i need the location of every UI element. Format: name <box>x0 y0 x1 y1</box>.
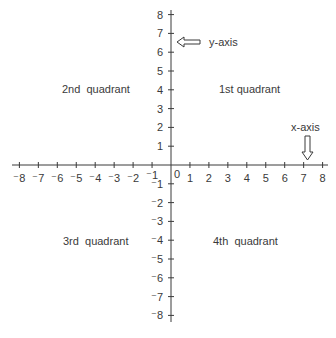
x-tick-label: 2 <box>206 172 212 184</box>
quadrant-4-label: 4th quadrant <box>213 235 278 247</box>
x-tick-label: ⁻4 <box>89 172 101 184</box>
x-tick-label: ⁻6 <box>51 172 63 184</box>
quadrant-2-label: 2nd quadrant <box>62 83 130 95</box>
x-tick-label: ⁻2 <box>127 172 139 184</box>
y-tick-label: ⁻8 <box>151 309 163 321</box>
y-tick-label: ⁻1 <box>151 178 163 190</box>
x-tick-label: 1 <box>187 172 193 184</box>
y-tick-label: 8 <box>157 9 163 21</box>
y-axis-annotation: y-axis <box>209 36 238 48</box>
down-arrow-icon <box>302 136 313 160</box>
y-tick-label: ⁻7 <box>151 291 163 303</box>
x-tick-label: 4 <box>244 172 250 184</box>
y-tick-label: 1 <box>157 140 163 152</box>
y-tick-label: 6 <box>157 46 163 58</box>
y-tick-label: ⁻6 <box>151 272 163 284</box>
quadrant-3-label: 3rd quadrant <box>63 235 128 247</box>
x-axis-annotation: x-axis <box>291 121 320 133</box>
y-tick-label: ⁻5 <box>151 253 163 265</box>
y-tick-label: ⁻4 <box>151 234 163 246</box>
y-tick-label: 5 <box>157 65 163 77</box>
y-tick-label: 4 <box>157 84 163 96</box>
coordinate-plane: ⁻8⁻7⁻6⁻5⁻4⁻3⁻2⁻112345678 87654321⁻1⁻2⁻3⁻… <box>0 0 336 338</box>
y-tick-label: 2 <box>157 121 163 133</box>
origin-label: 0 <box>174 168 180 180</box>
y-tick-label: 3 <box>157 103 163 115</box>
quadrant-1-label: 1st quadrant <box>219 83 280 95</box>
y-tick-label: ⁻3 <box>151 215 163 227</box>
x-tick-label: 6 <box>282 172 288 184</box>
x-tick-label: 7 <box>301 172 307 184</box>
y-tick-label: ⁻2 <box>151 197 163 209</box>
y-tick-label: 7 <box>157 27 163 39</box>
left-arrow-icon <box>177 37 200 47</box>
x-tick-label: 3 <box>225 172 231 184</box>
x-tick-label: ⁻5 <box>70 172 82 184</box>
x-tick-label: 8 <box>320 172 326 184</box>
x-tick-label: ⁻7 <box>32 172 44 184</box>
x-tick-label: ⁻3 <box>108 172 120 184</box>
x-tick-label: 5 <box>263 172 269 184</box>
x-tick-label: ⁻8 <box>13 172 25 184</box>
